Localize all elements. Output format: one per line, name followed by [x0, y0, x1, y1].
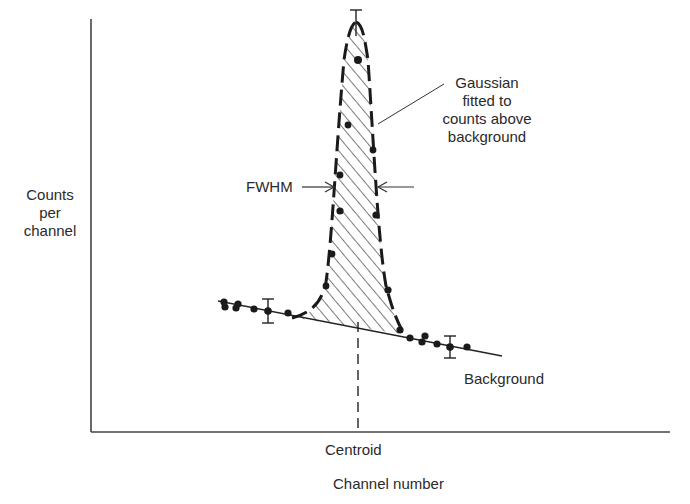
x-axis-label: Channel number [333, 475, 444, 493]
background-label: Background [464, 370, 544, 388]
gamma-peak-diagram [0, 0, 690, 504]
axes [91, 19, 670, 432]
gaussian-annotation: Gaussian fitted to counts above backgrou… [428, 74, 546, 146]
centroid-label: Centroid [325, 441, 382, 459]
fwhm-label: FWHM [246, 178, 293, 196]
y-axis-label: Counts per channel [20, 186, 80, 240]
